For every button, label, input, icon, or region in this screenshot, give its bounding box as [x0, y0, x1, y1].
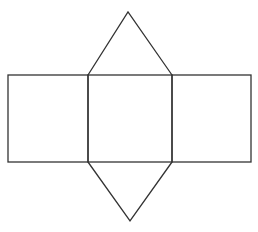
bottom-triangle	[88, 162, 172, 221]
top-triangle	[88, 12, 172, 75]
net-shapes	[8, 12, 251, 221]
prism-net-diagram	[0, 0, 258, 232]
middle-rectangle	[88, 75, 172, 162]
right-rectangle	[172, 75, 251, 162]
left-rectangle	[8, 75, 88, 162]
